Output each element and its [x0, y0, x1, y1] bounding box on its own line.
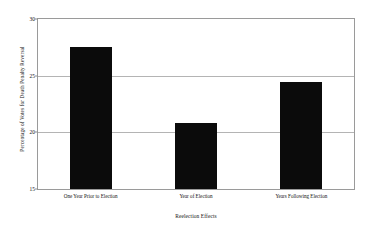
x-tick-label: Years Following Election	[275, 193, 327, 199]
y-axis-title: Percentage of Votes for Death Penalty Re…	[16, 4, 28, 194]
y-tick-mark	[35, 19, 38, 20]
bar-chart: Percentage of Votes for Death Penalty Re…	[0, 0, 370, 236]
bar	[280, 82, 322, 189]
x-tick-label: Year of Election	[179, 193, 212, 199]
plot-area: 15202530One Year Prior to ElectionYear o…	[37, 18, 355, 190]
y-tick-mark	[35, 189, 38, 190]
y-tick-mark	[35, 75, 38, 76]
x-tick-label: One Year Prior to Election	[64, 193, 118, 199]
bar	[70, 47, 112, 189]
y-tick-mark	[35, 132, 38, 133]
y-tick-label: 30	[30, 16, 35, 22]
y-tick-label: 15	[30, 186, 35, 192]
bar	[175, 123, 217, 189]
y-tick-label: 20	[30, 129, 35, 135]
x-axis-title: Reelection Effects	[37, 213, 355, 219]
y-tick-label: 25	[30, 73, 35, 79]
